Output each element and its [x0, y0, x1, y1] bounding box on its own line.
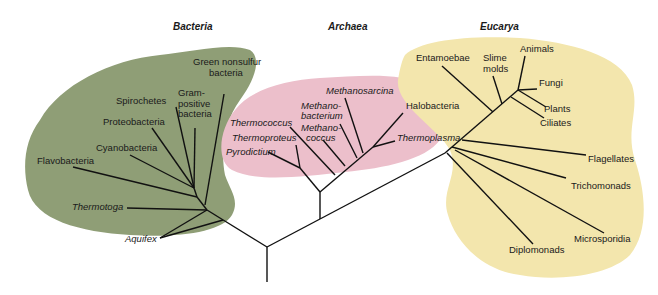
taxon-gram-positive-line3: bacteria [178, 108, 213, 119]
taxon-entamoebae: Entamoebae [416, 52, 470, 63]
taxon-thermoproteus: Thermoproteus [232, 132, 297, 143]
taxon-gram-positive: Gram- [178, 87, 205, 98]
taxon-green-nonsulfur: Green nonsulfur [193, 56, 261, 67]
taxon-proteobacteria: Proteobacteria [103, 116, 166, 127]
taxon-halobacteria: Halobacteria [406, 100, 460, 111]
taxon-animals: Animals [520, 43, 554, 54]
taxon-spirochetes: Spirochetes [116, 95, 166, 106]
taxon-plants: Plants [544, 103, 571, 114]
phylogenetic-tree: Bacteria Archaea Eucarya Green nonsulfur… [0, 0, 658, 295]
taxon-ciliates: Ciliates [540, 117, 571, 128]
taxon-slime-molds-line2: molds [483, 63, 509, 74]
taxon-pyrodictium: Pyrodictium [226, 146, 276, 157]
taxon-methanococcus-line2: coccus [306, 132, 336, 143]
taxon-cyanobacteria: Cyanobacteria [96, 142, 158, 153]
taxon-green-nonsulfur-line2: bacteria [209, 67, 244, 78]
taxon-flagellates: Flagellates [588, 153, 634, 164]
taxon-slime-molds: Slime [483, 52, 507, 63]
domain-title-bacteria: Bacteria [173, 21, 213, 32]
taxon-thermoplasma: Thermoplasma [397, 132, 460, 143]
taxon-aquifex: Aquifex [124, 233, 158, 244]
taxon-thermotoga: Thermotoga [72, 201, 123, 212]
taxon-trichomonads: Trichomonads [571, 180, 631, 191]
taxon-methanosarcina: Methanosarcina [326, 85, 394, 96]
taxon-microsporidia: Microsporidia [574, 233, 631, 244]
taxon-flavobacteria: Flavobacteria [37, 155, 95, 166]
taxon-fungi: Fungi [539, 77, 563, 88]
domain-title-archaea: Archaea [327, 21, 368, 32]
taxon-methanobacterium-line2: bacterium [301, 110, 343, 121]
domain-title-eucarya: Eucarya [480, 21, 519, 32]
taxon-diplomonads: Diplomonads [509, 244, 565, 255]
taxon-thermococcus: Thermococcus [230, 117, 293, 128]
